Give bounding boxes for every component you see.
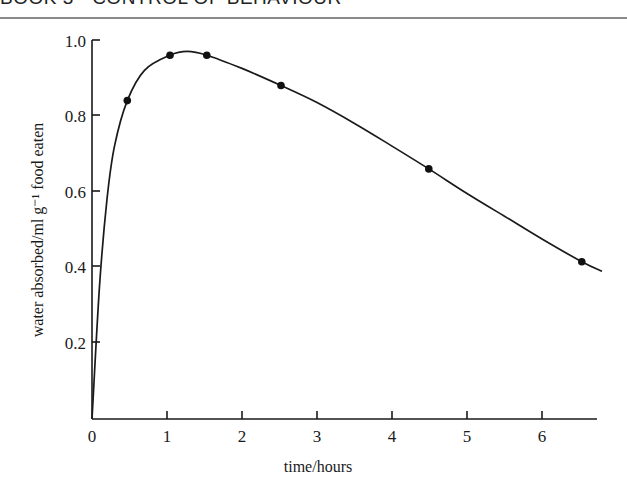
x-tick-label: 2 bbox=[238, 427, 247, 446]
data-points bbox=[124, 51, 586, 265]
line-chart: 1.0 0.8 0.6 0.4 0.2 0 1 2 3 4 5 6 time/h… bbox=[0, 0, 627, 495]
y-tick-label: 0.2 bbox=[65, 334, 86, 353]
data-point-marker bbox=[124, 97, 132, 105]
y-axis-title: water absorbed/ml g⁻¹ food eaten bbox=[29, 123, 47, 338]
x-tick-label: 3 bbox=[313, 427, 322, 446]
y-tick-label: 0.4 bbox=[65, 258, 87, 277]
x-axis-title: time/hours bbox=[284, 458, 352, 475]
x-tick-label: 1 bbox=[163, 427, 172, 446]
x-tick-label: 5 bbox=[463, 427, 472, 446]
x-tick-label: 4 bbox=[388, 427, 397, 446]
data-point-marker bbox=[277, 82, 285, 90]
fitted-curve bbox=[92, 51, 602, 419]
data-point-marker bbox=[166, 51, 174, 59]
y-tick-label: 1.0 bbox=[65, 32, 86, 51]
data-point-marker bbox=[578, 258, 586, 266]
x-tick-labels: 0 1 2 3 4 5 6 bbox=[88, 427, 547, 446]
data-point-marker bbox=[425, 165, 433, 173]
y-tick-label: 0.8 bbox=[65, 107, 86, 126]
x-axis bbox=[92, 411, 597, 419]
data-point-marker bbox=[203, 51, 211, 59]
y-tick-labels: 1.0 0.8 0.6 0.4 0.2 bbox=[65, 32, 87, 353]
y-axis bbox=[92, 40, 100, 419]
x-tick-label: 0 bbox=[88, 427, 97, 446]
x-tick-label: 6 bbox=[538, 427, 547, 446]
y-tick-label: 0.6 bbox=[65, 183, 86, 202]
